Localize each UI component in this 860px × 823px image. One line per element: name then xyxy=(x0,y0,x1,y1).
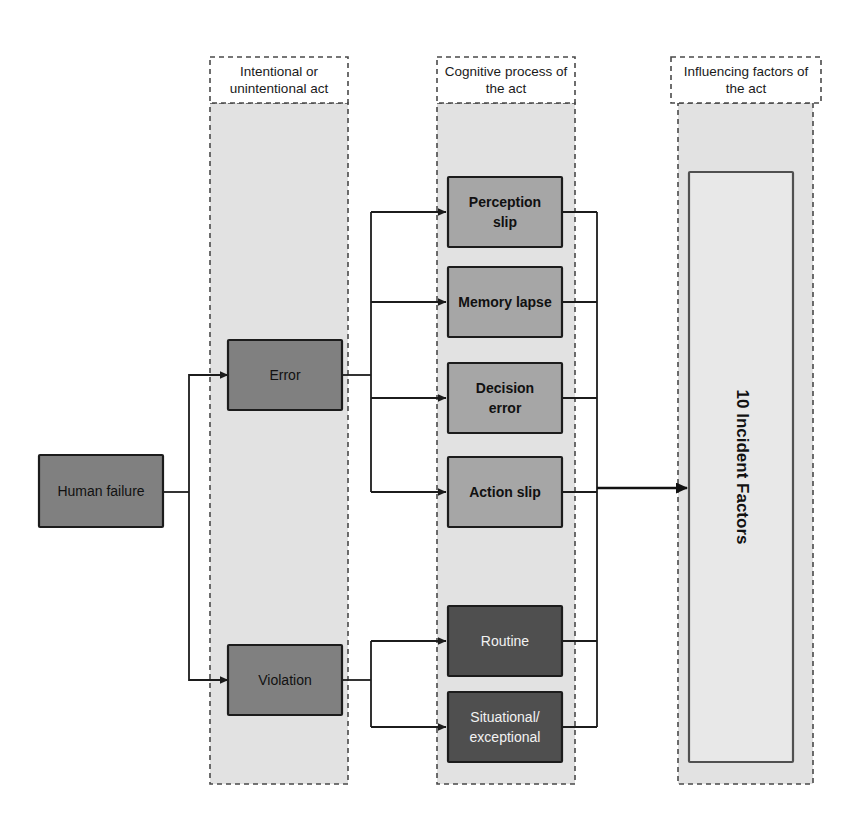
node-decision-error-label-line2: error xyxy=(489,400,522,416)
node-decision-error-box[interactable] xyxy=(448,363,562,433)
node-decision-error-label-line1: Decision xyxy=(476,380,534,396)
node-routine-label: Routine xyxy=(481,633,529,649)
swimlane-header-act-line2: unintentional act xyxy=(230,81,329,96)
node-action-slip[interactable]: Action slip xyxy=(448,457,562,527)
node-error[interactable]: Error xyxy=(228,340,342,410)
node-perception-slip[interactable]: Perception slip xyxy=(448,177,562,247)
diagram-canvas: Intentional or unintentional act Cogniti… xyxy=(0,0,860,823)
swimlane-header-influencing-line2: the act xyxy=(726,81,767,96)
connector-group-error-branches xyxy=(342,212,446,492)
swimlane-header-cognitive-line1: Cognitive process of xyxy=(445,64,568,79)
node-perception-slip-label-line2: slip xyxy=(493,214,517,230)
swimlane-header-act-line1: Intentional or xyxy=(240,64,319,79)
node-memory-lapse-label: Memory lapse xyxy=(458,294,552,310)
node-memory-lapse[interactable]: Memory lapse xyxy=(448,267,562,337)
node-violation-label: Violation xyxy=(258,672,311,688)
node-error-label: Error xyxy=(269,367,300,383)
node-human-failure-label: Human failure xyxy=(57,483,144,499)
node-incident-factors[interactable]: 10 Incident Factors xyxy=(689,172,793,762)
node-decision-error[interactable]: Decision error xyxy=(448,363,562,433)
node-perception-slip-label-line1: Perception xyxy=(469,194,541,210)
node-violation[interactable]: Violation xyxy=(228,645,342,715)
connector-group-to-outcome xyxy=(562,212,687,727)
node-situational-exceptional-label-line1: Situational/ xyxy=(470,709,539,725)
connector-group-violation-branches xyxy=(342,641,446,727)
node-situational-exceptional-label-line2: exceptional xyxy=(470,729,541,745)
node-situational-exceptional-box[interactable] xyxy=(448,692,562,762)
human-failure-flow-diagram: Intentional or unintentional act Cogniti… xyxy=(0,0,860,823)
swimlane-header-influencing-line1: Influencing factors of xyxy=(684,64,809,79)
node-human-failure[interactable]: Human failure xyxy=(39,455,163,527)
node-routine[interactable]: Routine xyxy=(448,606,562,676)
node-action-slip-label: Action slip xyxy=(469,484,541,500)
node-incident-factors-label: 10 Incident Factors xyxy=(733,390,752,545)
node-situational-exceptional[interactable]: Situational/ exceptional xyxy=(448,692,562,762)
node-perception-slip-box[interactable] xyxy=(448,177,562,247)
swimlane-header-cognitive-line2: the act xyxy=(486,81,527,96)
